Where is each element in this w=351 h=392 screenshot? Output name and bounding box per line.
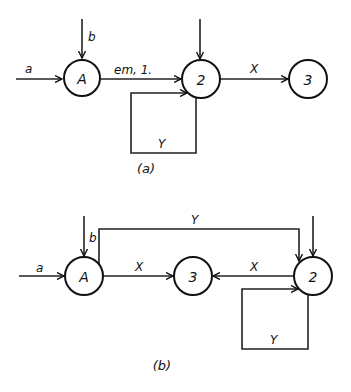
loop-label-y-b: Y: [270, 333, 279, 347]
edge-label-em: em, 1.: [114, 63, 152, 77]
node-3: 3: [289, 60, 327, 98]
node-label-3: 3: [304, 72, 313, 88]
edge-label-x-right: X: [249, 260, 259, 274]
edge-label-x-left: X: [134, 260, 144, 274]
node-label-2: 2: [197, 72, 206, 88]
node-2: 2: [182, 60, 220, 98]
node-label-3-b: 3: [189, 269, 198, 285]
caption-a: (a): [137, 161, 155, 176]
node-label-2-b: 2: [309, 269, 318, 285]
edge-label-x: X: [249, 62, 259, 76]
edge-label-y-top: Y: [191, 213, 200, 227]
node-A-b: A: [65, 257, 103, 295]
node-label-A: A: [76, 71, 87, 87]
node-3-b: 3: [174, 257, 212, 295]
edge-label-a-b: a: [36, 261, 43, 275]
node-label-A-b: A: [78, 269, 89, 285]
node-2-b: 2: [294, 257, 332, 295]
loop-label-y: Y: [158, 137, 167, 151]
node-A: A: [64, 60, 100, 96]
diagram-b: a b Y X X Y A 3 2 (b): [19, 213, 332, 373]
edge-label-b-b: b: [89, 231, 97, 245]
state-diagram: a b em, 1. X Y A 2 3 (a) a: [0, 0, 351, 392]
edge-label-b: b: [88, 30, 96, 44]
caption-b: (b): [153, 358, 171, 373]
diagram-a: a b em, 1. X Y A 2 3 (a): [16, 19, 327, 176]
edge-label-a: a: [25, 62, 32, 76]
